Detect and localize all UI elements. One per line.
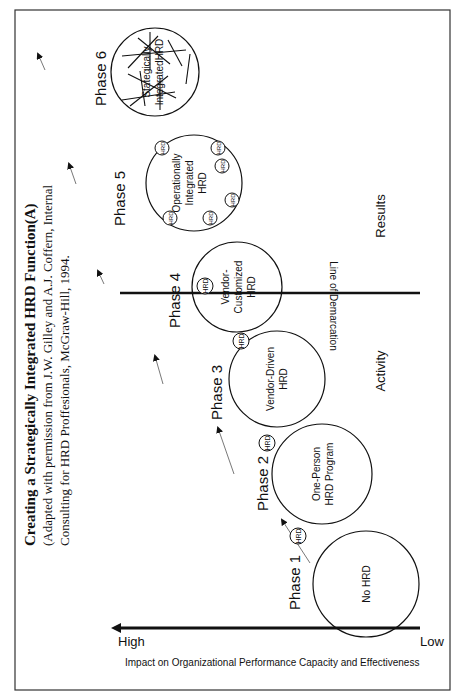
flow-arrow-2-3 [218, 428, 234, 474]
activity-label: Activity [373, 350, 388, 392]
phase-6: Phase 6 Stategically IntegratedHRD [92, 28, 199, 116]
citation-line-1: (Adapted with permission from J.W. Gille… [39, 26, 56, 546]
hrd-badge-4-text: HRD [202, 278, 209, 293]
phase-5-label: Phase 5 [111, 171, 128, 226]
phase-4-circle-line-2: Customized [233, 261, 244, 314]
results-label: Results [373, 194, 388, 238]
phase-5: Phase 5 HRD HRD HRD HRD HRD HRD Operatio… [111, 135, 242, 231]
phase-4-circle-line-1: Vendor- [220, 269, 231, 304]
hrd-badge-5a-text: HRD [168, 211, 174, 225]
phase-2-label: Phase 2 [254, 456, 271, 511]
phase-3-circle-line-2: HRD [278, 368, 289, 390]
phase-1-circle-text: No HRD [361, 565, 372, 602]
citation-line-2: Consulting for HRD Proffesionals, McGraw… [56, 26, 73, 546]
axis-high-label: High [118, 634, 145, 649]
phase-5-circle-line-3: HRD [197, 172, 208, 194]
phase-2-circle-line-1: One-Person [311, 447, 322, 501]
diagram-page: High Low Impact on Organizational Perfor… [0, 0, 457, 696]
hrd-badge-5b-text: HRD [208, 211, 214, 225]
axis-title: Impact on Organizational Performance Cap… [125, 657, 419, 668]
phase-4-label: Phase 4 [166, 273, 183, 328]
flow-arrow-3-4 [155, 356, 163, 384]
phase-3-label: Phase 3 [208, 365, 225, 420]
phase-3: Phase 3 HRD Vendor-Driven HRD [208, 331, 325, 427]
phase-6-label: Phase 6 [92, 51, 109, 106]
phase-2-circle [272, 424, 372, 524]
hrd-badge-5e-text: HRD [216, 141, 222, 155]
phase-5-circle-line-1: Operationally [171, 154, 182, 213]
phase-2-circle-line-2: HRD Program [324, 443, 335, 506]
hrd-badge-5c-text: HRD [160, 141, 166, 155]
axis-low-label: Low [420, 634, 444, 649]
phase-2: Phase 2 HRD One-Person HRD Program [254, 424, 372, 524]
hrd-badge-2-text: HRD [264, 435, 271, 450]
flow-arrow-4-5 [98, 271, 104, 284]
phase-6-circle-line-1: Stategically [141, 46, 152, 97]
demarcation-label: Line of Demarcation [328, 261, 339, 351]
phase-4-circle-line-3: HRD [246, 276, 257, 298]
phase-4: Phase 4 HRD Vendor- Customized HRD [166, 242, 282, 332]
hrd-badge-3-text: HRD [238, 333, 245, 348]
phase-1-label: Phase 1 [286, 555, 303, 610]
diagram-title: Creating a Strategically Integrated HRD … [22, 26, 39, 546]
hrd-badge-5f-text: HRD [230, 193, 236, 207]
phase-1: Phase 1 HRD No HRD [286, 528, 419, 637]
hrd-badge-1-text: HRD [295, 528, 302, 543]
phase-3-circle-line-1: Vendor-Driven [265, 347, 276, 411]
phase-5-circle-line-2: Integrated [184, 160, 195, 205]
title-block: Creating a Strategically Integrated HRD … [22, 26, 73, 546]
phase-6-circle-line-2: IntegratedHRD [154, 39, 165, 106]
hrd-badge-5d-text: HRD [220, 159, 226, 173]
